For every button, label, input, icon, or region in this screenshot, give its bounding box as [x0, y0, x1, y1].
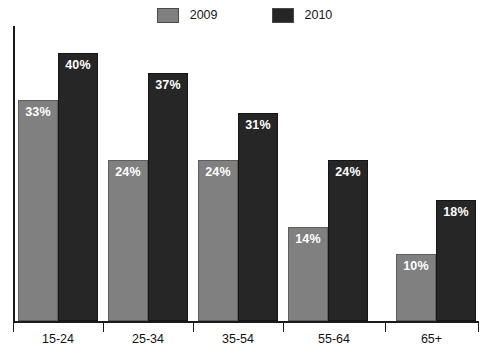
bar-value-label: 18% — [437, 206, 475, 219]
x-axis-tick — [103, 323, 104, 332]
bar[interactable]: 24% — [108, 160, 148, 321]
bar-group: 14%24% — [288, 26, 368, 321]
bar-value-label: 31% — [239, 119, 277, 132]
legend-label-2010: 2010 — [305, 9, 333, 22]
bar-value-label: 40% — [59, 59, 97, 72]
legend-item-2009[interactable]: 2009 — [157, 8, 218, 23]
x-axis-category-label: 25-34 — [103, 333, 193, 347]
x-axis-tick — [283, 323, 284, 332]
bar[interactable]: 37% — [148, 73, 188, 321]
legend-swatch-2010 — [272, 8, 294, 23]
bar[interactable]: 24% — [328, 160, 368, 321]
x-axis-category-label: 55-64 — [283, 333, 385, 347]
x-axis-category-label: 15-24 — [13, 333, 103, 347]
bar-value-label: 24% — [109, 166, 147, 179]
bar[interactable]: 40% — [58, 53, 98, 321]
bar-value-label: 10% — [397, 260, 435, 273]
bar[interactable]: 33% — [18, 100, 58, 321]
x-axis-tick — [193, 323, 194, 332]
bar-value-label: 14% — [289, 233, 327, 246]
bar-group: 10%18% — [396, 26, 476, 321]
x-axis-tick — [478, 323, 479, 332]
plot-area: 33%40%24%37%24%31%14%24%10%18% — [13, 26, 479, 323]
chart-legend: 2009 2010 — [0, 6, 489, 24]
bar-chart: 2009 2010 33%40%24%37%24%31%14%24%10%18%… — [0, 0, 489, 361]
bar-value-label: 37% — [149, 79, 187, 92]
legend-label-2009: 2009 — [190, 9, 218, 22]
x-axis-category-label: 65+ — [385, 333, 478, 347]
x-axis-tick — [385, 323, 386, 332]
x-axis-category-label: 35-54 — [193, 333, 283, 347]
x-axis-ticks — [13, 323, 479, 332]
legend-swatch-2009 — [157, 8, 179, 23]
bar-group: 33%40% — [18, 26, 98, 321]
bar-value-label: 24% — [329, 166, 367, 179]
bar-group: 24%31% — [198, 26, 278, 321]
chart-title — [0, 0, 489, 3]
legend-item-2010[interactable]: 2010 — [272, 8, 333, 23]
bar-group: 24%37% — [108, 26, 188, 321]
bar[interactable]: 31% — [238, 113, 278, 321]
bars-layer: 33%40%24%37%24%31%14%24%10%18% — [13, 26, 479, 321]
x-axis-tick — [13, 323, 14, 332]
bar[interactable]: 18% — [436, 200, 476, 321]
bar[interactable]: 14% — [288, 227, 328, 321]
bar[interactable]: 10% — [396, 254, 436, 321]
bar[interactable]: 24% — [198, 160, 238, 321]
bar-value-label: 24% — [199, 166, 237, 179]
x-axis-category-labels: 15-2425-3435-5455-6465+ — [13, 333, 479, 351]
bar-value-label: 33% — [19, 106, 57, 119]
